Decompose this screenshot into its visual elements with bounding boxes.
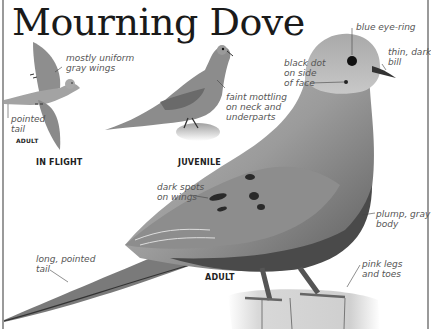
caption-adult: ADULT [205, 273, 235, 282]
label-flight-tail: pointed tail [11, 114, 45, 134]
label-flight-wings: mostly uniform gray wings [66, 53, 134, 73]
label-adult-face-dot: black dot on side of face [284, 58, 326, 88]
label-adult-tail: long, pointed tail [36, 254, 95, 274]
label-adult-eye-ring: blue eye-ring [356, 22, 416, 32]
caption-juvenile: JUVENILE [178, 158, 221, 167]
label-adult-wing-spots: dark spots on wings [157, 182, 204, 202]
label-adult-body: plump, gray body [376, 209, 430, 229]
caption-flight-adult: ADULT [16, 137, 38, 144]
label-adult-bill: thin, dark bill [388, 47, 431, 67]
label-adult-legs: pink legs and toes [362, 259, 402, 279]
label-juvenile-mottling: faint mottling on neck and underparts [226, 92, 287, 122]
caption-in-flight: IN FLIGHT [36, 158, 83, 167]
